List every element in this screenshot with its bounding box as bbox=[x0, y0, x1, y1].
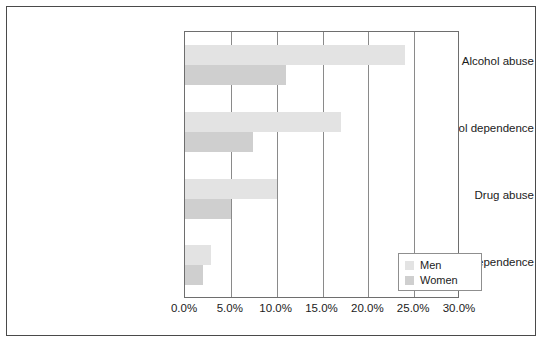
legend-swatch-icon bbox=[405, 261, 414, 270]
legend-entry-women: Women bbox=[405, 273, 481, 288]
legend-swatch-icon bbox=[405, 276, 414, 285]
bar-men bbox=[185, 45, 405, 65]
x-tick-label: 15.0% bbox=[305, 302, 338, 314]
bar-group-alcohol-abuse bbox=[185, 32, 458, 99]
chart-figure: Alcohol abuse Alcohol dependence Drug ab… bbox=[0, 0, 542, 342]
x-tick-label: 10.0% bbox=[259, 302, 292, 314]
bar-group-alcohol-dependence bbox=[185, 99, 458, 166]
legend-label: Men bbox=[420, 260, 441, 271]
bar-women bbox=[185, 199, 231, 219]
x-tick-label: 20.0% bbox=[351, 302, 384, 314]
x-tick-label: 30.0% bbox=[443, 302, 476, 314]
y-axis-label-text: Alcohol abuse bbox=[462, 55, 534, 67]
legend-label: Women bbox=[420, 275, 458, 286]
x-tick-label: 25.0% bbox=[397, 302, 430, 314]
x-axis-ticks: 0.0% 5.0% 10.0% 15.0% 20.0% 25.0% 30.0% bbox=[184, 302, 459, 320]
legend-entry-men: Men bbox=[405, 258, 481, 273]
bar-women bbox=[185, 65, 286, 85]
x-tick-label: 0.0% bbox=[171, 302, 197, 314]
bar-men bbox=[185, 179, 277, 199]
bar-men bbox=[185, 245, 211, 265]
y-axis-label-text: Drug abuse bbox=[475, 189, 534, 201]
chart-legend: Men Women bbox=[398, 253, 482, 291]
bar-men bbox=[185, 112, 341, 132]
bar-women bbox=[185, 265, 203, 285]
bar-group-drug-abuse bbox=[185, 166, 458, 233]
bar-women bbox=[185, 132, 253, 152]
x-tick-label: 5.0% bbox=[217, 302, 243, 314]
